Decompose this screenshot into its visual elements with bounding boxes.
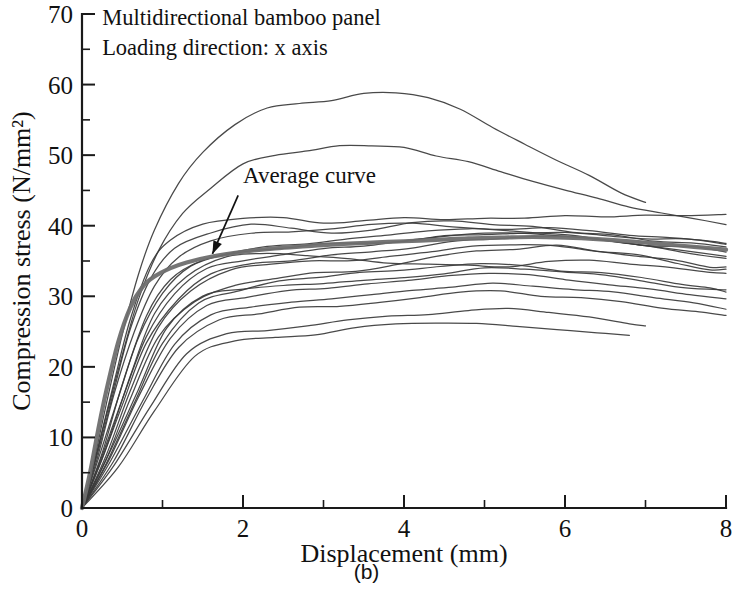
x-tick-label: 8 <box>720 515 733 542</box>
panel-caption: (b) <box>0 560 733 584</box>
figure-note: Multidirectional bamboo panel <box>102 5 381 30</box>
y-tick-label: 30 <box>48 283 73 310</box>
x-tick-label: 0 <box>76 515 89 542</box>
x-tick-label: 4 <box>398 515 411 542</box>
annotations-layer: Multidirectional bamboo panelLoading dir… <box>102 5 381 254</box>
specimen-curve <box>82 268 726 508</box>
specimen-curve <box>82 323 629 508</box>
specimen-curve <box>82 236 726 508</box>
y-axis-title: Compression stress (N/mm²) <box>7 111 36 411</box>
x-tick-label: 6 <box>559 515 572 542</box>
y-tick-label: 50 <box>48 142 73 169</box>
curves-layer <box>82 92 726 508</box>
specimen-curve <box>82 245 726 508</box>
figure-container: 01020304050607002468Displacement (mm)Com… <box>0 0 733 598</box>
y-tick-label: 70 <box>48 1 73 28</box>
specimen-curve <box>82 214 726 508</box>
specimen-curve <box>82 273 726 508</box>
specimen-curve <box>82 232 726 508</box>
specimen-curve <box>82 233 726 508</box>
specimen-curve <box>82 145 726 508</box>
y-tick-label: 0 <box>61 495 74 522</box>
y-tick-label: 20 <box>48 354 73 381</box>
specimen-curve <box>82 283 726 508</box>
specimen-curve <box>82 264 726 508</box>
axis-spines <box>82 14 726 508</box>
y-tick-label: 10 <box>48 424 73 451</box>
compression-stress-chart: 01020304050607002468Displacement (mm)Com… <box>0 0 733 598</box>
specimen-curve <box>82 92 646 508</box>
average-curve-annotation-label: Average curve <box>243 163 376 188</box>
y-tick-label: 40 <box>48 213 73 240</box>
x-tick-label: 2 <box>237 515 250 542</box>
axes-layer: 01020304050607002468Displacement (mm)Com… <box>7 1 732 568</box>
y-tick-label: 60 <box>48 72 73 99</box>
annotation-arrow-head <box>212 240 221 254</box>
figure-note: Loading direction: x axis <box>102 35 328 60</box>
